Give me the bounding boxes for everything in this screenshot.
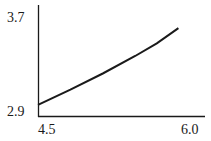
x-tick-label-right: 6.0	[181, 123, 199, 137]
line-chart	[0, 0, 211, 141]
x-tick-label-left: 4.5	[38, 123, 56, 137]
data-line	[38, 28, 178, 105]
y-tick-label-bottom: 2.9	[7, 105, 25, 119]
y-tick-label-top: 3.7	[7, 11, 25, 25]
